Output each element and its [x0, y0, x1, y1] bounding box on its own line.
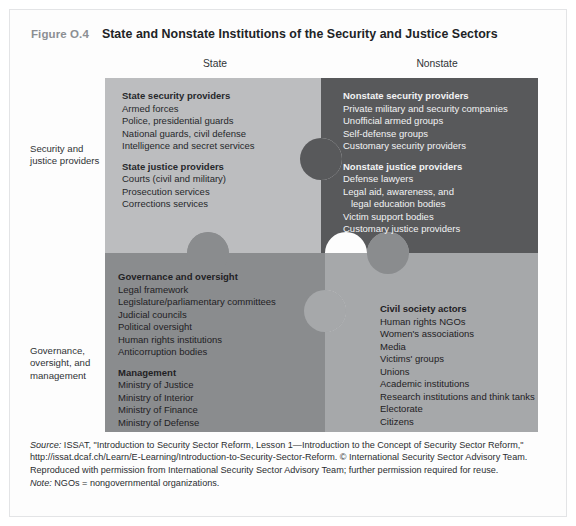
row-label-security-justice-providers: Security and justice providers	[30, 143, 102, 168]
list-item: Victims' groups	[380, 353, 444, 364]
list-item: Customary security providers	[343, 140, 466, 151]
list-item: Judicial councils	[118, 309, 187, 320]
row-label-governance-oversight-management: Governance, oversight, and management	[30, 345, 102, 382]
list-item: Human rights institutions	[118, 334, 222, 345]
column-header-state: State	[150, 58, 280, 69]
source-label: Source:	[30, 440, 61, 450]
quadrant-state-providers: State security providers Armed forces Po…	[105, 78, 321, 253]
list-item: Political oversight	[118, 321, 192, 332]
group-heading-nonstate-justice-providers: Nonstate justice providers	[343, 161, 462, 172]
figure-container: Figure O.4 State and Nonstate Institutio…	[0, 0, 576, 526]
list-item: National guards, civil defense	[122, 128, 246, 139]
group-spacer	[343, 153, 508, 161]
page-title: State and Nonstate Institutions of the S…	[102, 27, 498, 41]
list-item: Ministry of Justice	[118, 379, 194, 390]
list-item: Private military and security companies	[343, 103, 508, 114]
group-heading-state-justice-providers: State justice providers	[122, 161, 224, 172]
list-item: Academic institutions	[380, 378, 469, 389]
list-item: Ministry of Defense	[118, 417, 199, 428]
list-item: Intelligence and secret services	[122, 140, 255, 151]
list-item: Customary justice providers	[343, 223, 460, 234]
quadrant-nonstate-governance: Civil society actors Human rights NGOs W…	[325, 253, 538, 432]
quadrant-state-governance: Governance and oversight Legal framework…	[105, 253, 325, 432]
list-item: Victim support bodies	[343, 211, 434, 222]
list-item: Police, presidential guards	[122, 115, 233, 126]
list-item: legal education bodies	[343, 198, 445, 209]
group-heading-state-security-providers: State security providers	[122, 90, 230, 101]
list-item: Legal framework	[118, 284, 188, 295]
list-item: Anticorruption bodies	[118, 346, 207, 357]
list-item: Defense lawyers	[343, 173, 413, 184]
note-text: NGOs = nongovernmental organizations.	[52, 478, 220, 488]
list-item: Research institutions and think tanks	[380, 391, 535, 402]
general-note: Note: NGOs = nongovernmental organizatio…	[30, 477, 542, 489]
list-item: Courts (civil and military)	[122, 173, 226, 184]
list-item: Corrections services	[122, 198, 208, 209]
quadrant-nonstate-providers-text: Nonstate security providers Private mili…	[343, 90, 508, 236]
quadrant-nonstate-governance-text: Civil society actors Human rights NGOs W…	[380, 303, 535, 428]
quadrant-nonstate-providers: Nonstate security providers Private mili…	[321, 78, 538, 253]
figure-number: Figure O.4	[31, 28, 89, 40]
list-item: Ministry of Finance	[118, 404, 198, 415]
source-note: Source: ISSAT, "Introduction to Security…	[30, 439, 542, 476]
group-spacer	[122, 153, 255, 161]
list-item: Media	[380, 341, 406, 352]
list-item: Self-defense groups	[343, 128, 428, 139]
list-item: Legislature/parliamentary committees	[118, 296, 276, 307]
figure-title-row: Figure O.4 State and Nonstate Institutio…	[31, 27, 541, 41]
note-label: Note:	[30, 478, 52, 488]
list-item: Unofficial armed groups	[343, 115, 443, 126]
list-item: Electorate	[380, 403, 423, 414]
group-heading-governance-and-oversight: Governance and oversight	[118, 271, 238, 282]
list-item: Prosecution services	[122, 186, 210, 197]
figure-footnotes: Source: ISSAT, "Introduction to Security…	[30, 439, 542, 489]
group-spacer	[118, 359, 276, 367]
list-item: Legal aid, awareness, and	[343, 186, 454, 197]
quadrant-state-governance-text: Governance and oversight Legal framework…	[118, 271, 276, 430]
list-item: Unions	[380, 366, 410, 377]
list-item: Ministry of Interior	[118, 392, 194, 403]
list-item: Women's associations	[380, 328, 474, 339]
column-header-nonstate: Nonstate	[372, 58, 502, 69]
group-heading-management: Management	[118, 367, 176, 378]
quadrant-state-providers-text: State security providers Armed forces Po…	[122, 90, 255, 211]
group-heading-nonstate-security-providers: Nonstate security providers	[343, 90, 469, 101]
list-item: Citizens	[380, 416, 414, 427]
list-item: Armed forces	[122, 103, 179, 114]
quadrant-matrix: State security providers Armed forces Po…	[105, 78, 538, 432]
source-text: ISSAT, "Introduction to Security Sector …	[30, 440, 527, 475]
list-item: Human rights NGOs	[380, 316, 466, 327]
group-heading-civil-society-actors: Civil society actors	[380, 303, 467, 314]
